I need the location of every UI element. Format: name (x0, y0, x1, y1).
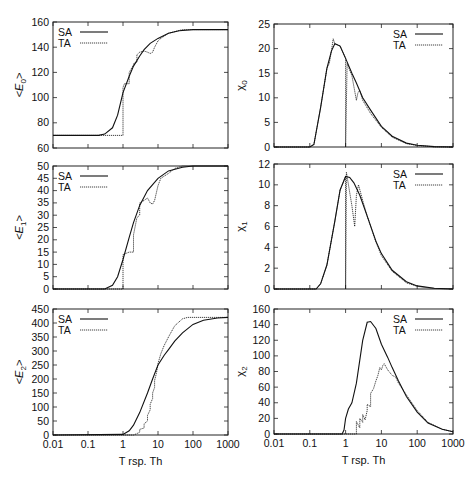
plot-E0: 6080100120140160<E0>SATA (13, 16, 228, 154)
y-tick-label: 15 (258, 67, 270, 79)
legend-label-ta: TA (58, 37, 71, 49)
series-ta-line (274, 39, 453, 147)
y-tick-label: 120 (252, 334, 270, 346)
y-tick-label: 60 (37, 142, 49, 154)
y-tick-label: 20 (37, 233, 49, 245)
plot-chi0: 0510152025χ0SATA (234, 18, 453, 153)
plot-chi1: 024681012χ1SATA (234, 158, 453, 295)
y-tick-label: 35 (37, 196, 49, 208)
y-tick-label: 450 (31, 303, 49, 315)
y-tick-label: 50 (37, 160, 49, 172)
y-tick-label: 10 (258, 178, 270, 190)
y-tick-label: 2 (264, 262, 270, 274)
plot-frame (274, 309, 453, 434)
plot-chi2: 0.010.11101001000020406080100120140160χ2… (234, 303, 465, 467)
series-ta-line (53, 317, 228, 435)
plot-E2: 0.010.1110100100005010015020025030035040… (13, 303, 240, 468)
legend: SATA (393, 313, 443, 336)
y-tick-label: 45 (37, 172, 49, 184)
y-axis-label: <E2> (13, 360, 28, 385)
y-tick-label: 0 (264, 141, 270, 153)
y-tick-label: 40 (258, 396, 270, 408)
y-tick-label: 100 (31, 91, 49, 103)
y-tick-label: 160 (31, 16, 49, 28)
y-tick-label: 0 (43, 429, 49, 441)
y-tick-label: 40 (37, 184, 49, 196)
y-tick-label: 25 (37, 221, 49, 233)
y-tick-label: 250 (31, 359, 49, 371)
series-ta-line (274, 364, 453, 434)
y-tick-label: 4 (264, 241, 270, 253)
y-tick-label: 20 (258, 412, 270, 424)
legend-label-ta: TA (58, 181, 71, 193)
y-tick-label: 30 (37, 209, 49, 221)
legend: SATA (393, 28, 443, 51)
plot-E1: 05101520253035404550<E1>SATA (13, 160, 228, 295)
x-tick-label: 0.1 (81, 438, 96, 450)
series-ta-line (274, 172, 453, 289)
y-tick-label: 10 (258, 91, 270, 103)
y-tick-label: 200 (31, 373, 49, 385)
y-axis-label: χ0 (234, 80, 249, 91)
series-sa-line (53, 317, 228, 435)
y-tick-label: 100 (31, 401, 49, 413)
y-axis-label: χ2 (234, 366, 249, 377)
x-axis-label: T rsp. Th (342, 454, 386, 466)
series-sa-line (274, 44, 453, 147)
y-axis-label: χ1 (234, 221, 249, 232)
x-tick-label: 10 (376, 437, 388, 449)
legend-label-ta: TA (393, 179, 406, 191)
y-tick-label: 100 (252, 349, 270, 361)
legend-label-ta: TA (58, 324, 71, 336)
legend: SATA (58, 313, 108, 336)
x-tick-label: 100 (184, 438, 202, 450)
legend: SATA (393, 168, 443, 191)
figure: 6080100120140160<E0>SATA0510152025χ0SATA… (0, 0, 475, 478)
y-tick-label: 350 (31, 331, 49, 343)
y-tick-label: 8 (264, 199, 270, 211)
x-tick-label: 1 (120, 438, 126, 450)
x-tick-label: 1000 (216, 438, 240, 450)
plot-frame (53, 166, 228, 289)
y-tick-label: 140 (252, 318, 270, 330)
y-tick-label: 300 (31, 345, 49, 357)
y-tick-label: 120 (31, 66, 49, 78)
x-tick-label: 1 (343, 437, 349, 449)
y-tick-label: 0 (43, 283, 49, 295)
y-axis-label: <E1> (13, 215, 28, 240)
legend: SATA (58, 170, 108, 193)
legend-label-ta: TA (393, 39, 406, 51)
legend: SATA (58, 26, 108, 49)
series-sa-line (53, 30, 228, 136)
y-tick-label: 20 (258, 42, 270, 54)
y-tick-label: 15 (37, 246, 49, 258)
y-tick-label: 25 (258, 18, 270, 30)
x-tick-label: 0.1 (302, 437, 317, 449)
series-sa-line (274, 177, 453, 290)
series-ta-line (53, 30, 228, 136)
x-tick-label: 10 (152, 438, 164, 450)
y-tick-label: 10 (37, 258, 49, 270)
plot-frame (53, 22, 228, 148)
y-tick-label: 400 (31, 317, 49, 329)
y-tick-label: 0 (264, 428, 270, 440)
y-tick-label: 80 (258, 365, 270, 377)
y-tick-label: 50 (37, 415, 49, 427)
y-tick-label: 6 (264, 220, 270, 232)
x-axis-label: T rsp. Th (119, 455, 163, 467)
series-ta-line (53, 166, 228, 289)
plot-frame (53, 309, 228, 435)
legend-label-ta: TA (393, 324, 406, 336)
series-sa-line (53, 166, 228, 289)
plot-frame (274, 164, 453, 289)
y-tick-label: 5 (264, 116, 270, 128)
y-tick-label: 80 (37, 116, 49, 128)
y-tick-label: 140 (31, 41, 49, 53)
y-tick-label: 12 (258, 158, 270, 170)
y-tick-label: 5 (43, 270, 49, 282)
x-tick-label: 1000 (441, 437, 465, 449)
y-tick-label: 60 (258, 381, 270, 393)
x-tick-label: 100 (408, 437, 426, 449)
y-tick-label: 160 (252, 303, 270, 315)
y-tick-label: 0 (264, 283, 270, 295)
